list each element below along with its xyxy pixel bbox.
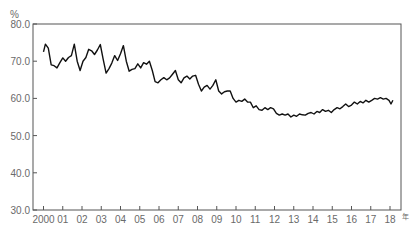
y-tick-label: 50.0 — [11, 131, 31, 142]
x-tick-label: 08 — [192, 214, 204, 225]
y-tick-label: 30.0 — [11, 205, 31, 216]
x-tick-label: 01 — [57, 214, 69, 225]
y-tick-label: 70.0 — [11, 56, 31, 67]
x-tick-label: 07 — [173, 214, 185, 225]
x-tick-label: 05 — [134, 214, 146, 225]
x-tick-label: 09 — [211, 214, 223, 225]
x-tick-label: 10 — [230, 214, 242, 225]
x-tick-label: 12 — [269, 214, 281, 225]
y-tick-label: 60.0 — [11, 93, 31, 104]
x-axis: 2000010203040506070809101112131415161718 — [32, 206, 396, 225]
x-tick-label: 2000 — [32, 214, 55, 225]
x-tick-label: 02 — [76, 214, 88, 225]
y-unit-label: % — [10, 9, 19, 20]
x-tick-label: 13 — [288, 214, 300, 225]
y-tick-label: 40.0 — [11, 168, 31, 179]
data-line — [44, 44, 393, 117]
line-chart: 30.040.050.060.070.080.0 200001020304050… — [0, 0, 413, 233]
x-tick-label: 15 — [327, 214, 339, 225]
y-tick-label: 80.0 — [11, 19, 31, 30]
x-tick-label: 18 — [384, 214, 396, 225]
x-tick-label: 17 — [365, 214, 377, 225]
x-tick-label: 14 — [307, 214, 319, 225]
x-tick-label: 06 — [153, 214, 165, 225]
x-tick-label: 03 — [96, 214, 108, 225]
x-tick-label: 16 — [346, 214, 358, 225]
x-tick-label: 04 — [115, 214, 127, 225]
x-unit-label: 年 — [402, 212, 409, 221]
x-tick-label: 11 — [250, 214, 261, 225]
